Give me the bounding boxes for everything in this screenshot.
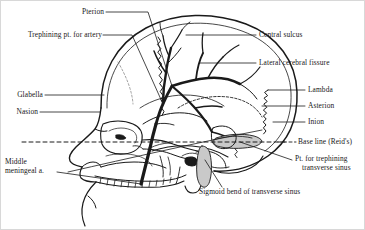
lambdoid-suture (263, 90, 268, 134)
posterior-branch-b (208, 57, 223, 78)
anatomical-figure: Pterion Trephining pt. for artery Glabel… (0, 0, 365, 230)
leader-trephining-artery (103, 35, 163, 104)
mandible-curve-lower (88, 196, 96, 208)
label-sigmoid-bend-transverse-sinus: Sigmoid bend of transverse sinus (199, 188, 300, 197)
label-glabella: Glabella (2, 91, 43, 100)
label-lambda: Lambda (308, 86, 333, 95)
label-base-line-reids: Base line (Reid's) (298, 138, 352, 147)
pterygoid-detail (168, 157, 170, 175)
frontal-inner-dotted (118, 62, 133, 104)
artery-base-branch (195, 106, 222, 108)
posterior-branch-c (202, 33, 203, 53)
label-middle-meningeal-artery-line2: meningeal a. (5, 167, 44, 176)
mandible-ramus (82, 182, 96, 226)
pterion-vessel-tangle-a (156, 123, 174, 125)
label-inion: Inion (308, 118, 324, 127)
styloid-process (176, 167, 180, 184)
orbital-fissure (116, 135, 126, 140)
posterior-branch-a (196, 53, 203, 79)
maxilla-front (80, 167, 96, 182)
sphenoid-greater-wing (143, 113, 207, 124)
artery-to-base (172, 86, 212, 132)
frontal-facial-contour (69, 108, 101, 167)
posterior-branch-e (240, 67, 260, 84)
label-trephining-transverse-sinus-line2: transverse sinus (302, 164, 351, 173)
label-pterion: Pterion (4, 8, 104, 17)
posterior-branch-f (240, 84, 257, 99)
maxilla-body (101, 162, 166, 168)
anterior-branch-c (171, 30, 182, 48)
posterior-division (172, 78, 240, 86)
external-acoustic-meatus (185, 157, 197, 166)
label-nasion: Nasion (2, 108, 38, 117)
nasal-aperture (82, 162, 101, 167)
anterior-branch-f (182, 22, 190, 30)
cranial-vault-inner (107, 23, 291, 151)
label-asterion: Asterion (308, 102, 334, 111)
leader-pterion (106, 12, 172, 86)
label-central-sulcus: Central sulcus (259, 31, 302, 40)
posterior-branch-d (223, 45, 239, 57)
label-trephining-point-artery: Trephining pt. for artery (2, 31, 102, 40)
anterior-branch-b (163, 36, 169, 56)
label-lateral-cerebral-fissure: Lateral cerebral fissure (259, 59, 330, 68)
